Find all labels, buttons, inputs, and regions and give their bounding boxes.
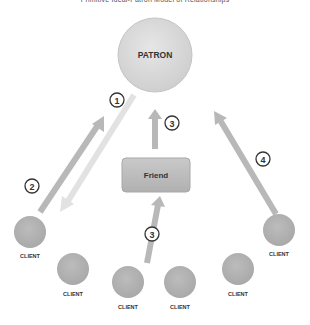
client-node: CLIENT bbox=[164, 266, 196, 310]
step-badge-4: 4 bbox=[256, 152, 270, 166]
client-node: CLIENT bbox=[112, 266, 144, 310]
friend-node: Friend bbox=[122, 158, 190, 192]
diagram-canvas: PATRON Friend 1 2 3 bbox=[0, 0, 310, 325]
client-node: CLIENT bbox=[14, 216, 46, 259]
svg-text:1: 1 bbox=[114, 96, 119, 106]
client-node: CLIENT bbox=[263, 214, 295, 257]
patron-node: PATRON bbox=[118, 18, 192, 92]
arrow-3-friend-to-patron bbox=[148, 109, 162, 149]
client-node: CLIENT bbox=[57, 253, 89, 297]
friend-label: Friend bbox=[144, 171, 169, 180]
step-badge-1: 1 bbox=[110, 93, 124, 107]
arrow-1-patron-to-client bbox=[60, 95, 134, 212]
svg-text:CLIENT: CLIENT bbox=[170, 304, 191, 310]
patron-label: PATRON bbox=[138, 50, 173, 60]
svg-text:CLIENT: CLIENT bbox=[269, 251, 290, 257]
svg-text:2: 2 bbox=[29, 182, 34, 192]
svg-text:CLIENT: CLIENT bbox=[63, 291, 84, 297]
svg-text:3: 3 bbox=[169, 119, 174, 129]
svg-text:3: 3 bbox=[149, 230, 154, 240]
svg-text:4: 4 bbox=[260, 155, 265, 165]
svg-text:CLIENT: CLIENT bbox=[228, 291, 249, 297]
client-node: CLIENT bbox=[222, 253, 254, 297]
svg-text:CLIENT: CLIENT bbox=[20, 253, 41, 259]
step-badge-3-lower: 3 bbox=[145, 227, 159, 241]
step-badge-2: 2 bbox=[25, 179, 39, 193]
svg-text:CLIENT: CLIENT bbox=[118, 304, 139, 310]
step-badge-3-upper: 3 bbox=[165, 116, 179, 130]
